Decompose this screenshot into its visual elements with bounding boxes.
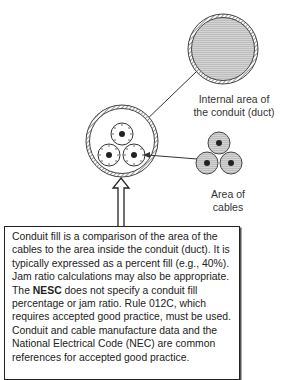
note-text: does not specify a conduit fill percenta… (12, 285, 231, 363)
label-line: Internal area of (186, 93, 282, 106)
conduit-fill-note: Conduit fill is a comparison of the area… (4, 226, 240, 380)
cables-area-label: Area of cables (196, 188, 260, 214)
conduit-with-cables-icon (86, 105, 158, 177)
conduit-internal-area-label: Internal area of the conduit (duct) (186, 93, 282, 119)
note-bold-nesc: NESC (33, 285, 62, 296)
hollow-up-arrow-icon (113, 178, 129, 226)
cables-area-icon (196, 132, 242, 174)
label-line: the conduit (duct) (186, 106, 282, 119)
conduit-internal-area-icon (188, 14, 258, 84)
label-line: cables (196, 201, 260, 214)
label-line: Area of (196, 188, 260, 201)
